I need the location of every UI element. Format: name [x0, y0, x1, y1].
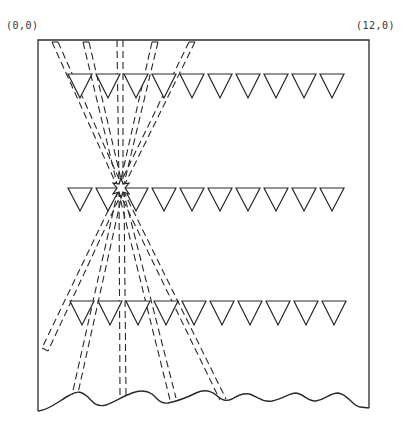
- top-row-triangles: [68, 74, 344, 98]
- diagram-canvas: [0, 0, 408, 435]
- wavy-surface: [38, 391, 369, 411]
- frame: [38, 40, 369, 411]
- middle-row-triangles: [68, 188, 344, 211]
- bottom-row-triangles: [70, 301, 346, 325]
